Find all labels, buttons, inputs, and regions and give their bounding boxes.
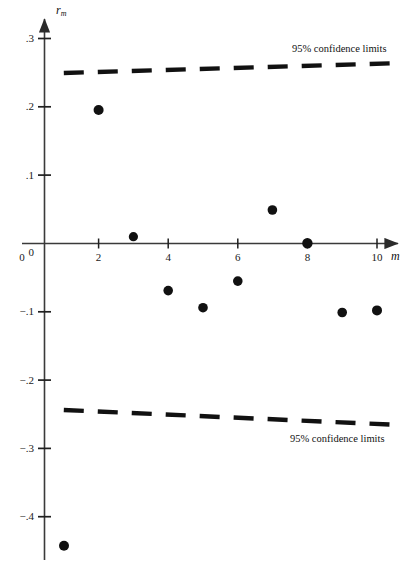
x-tick-label-6: 6 [228, 252, 248, 263]
x-tick-label-10: 10 [367, 252, 387, 263]
autocorrelation-chart: ̂rm m .3 .2 .1 0 −.1 −.2 −.3 −.4 0 2 4 6… [0, 0, 410, 567]
data-point-m7 [268, 205, 278, 215]
y-axis-label: ̂rm [56, 4, 66, 18]
x-axis-label: m [391, 250, 400, 262]
y-axis-label-subscript: m [61, 9, 67, 18]
data-point-m1 [59, 541, 69, 551]
y-tick-label-minus-0.1: −.1 [2, 306, 34, 317]
y-tick-label-0.1: .1 [6, 170, 34, 181]
upper-confidence-limits-annotation: 95% confidence limits [292, 44, 386, 55]
data-point-m6 [233, 276, 243, 286]
y-axis-label-base: r [56, 3, 61, 17]
data-point-m10 [372, 305, 382, 315]
lower-confidence-limit-band [64, 410, 401, 425]
data-point-m4 [163, 286, 173, 296]
data-point-m9 [337, 308, 347, 318]
y-tick-label-0.2: .2 [6, 101, 34, 112]
plot-canvas [0, 0, 410, 567]
data-points [59, 105, 382, 551]
data-point-m5 [198, 303, 208, 313]
x-tick-label-2: 2 [89, 252, 109, 263]
y-tick-label-minus-0.4: −.4 [2, 511, 34, 522]
data-point-m3 [129, 232, 138, 241]
lower-confidence-limits-annotation: 95% confidence limits [290, 434, 384, 445]
data-point-m8 [302, 238, 312, 248]
y-tick-label-minus-0.2: −.2 [2, 375, 34, 386]
y-tick-label-0.3: .3 [6, 33, 34, 44]
x-tick-label-8: 8 [297, 252, 317, 263]
x-tick-label-0: 0 [12, 252, 32, 263]
upper-confidence-limit-band [64, 63, 401, 73]
y-tick-label-minus-0.3: −.3 [2, 443, 34, 454]
data-point-m2 [94, 105, 104, 115]
x-tick-label-4: 4 [158, 252, 178, 263]
